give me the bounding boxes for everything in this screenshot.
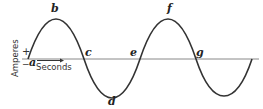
point-label-c: c	[85, 47, 92, 58]
point-label-f: f	[167, 3, 172, 14]
positive-sign: +	[22, 47, 30, 57]
sine-wave-diagram: b a c d e f g + − Seconds Amperes	[0, 0, 263, 109]
negative-sign: −	[22, 60, 30, 69]
point-label-g: g	[196, 47, 204, 58]
y-axis-label: Amperes	[11, 39, 20, 77]
point-label-e: e	[130, 47, 137, 58]
point-label-b: b	[51, 3, 59, 14]
point-label-d: d	[108, 96, 116, 107]
x-axis-label: Seconds	[36, 63, 72, 72]
